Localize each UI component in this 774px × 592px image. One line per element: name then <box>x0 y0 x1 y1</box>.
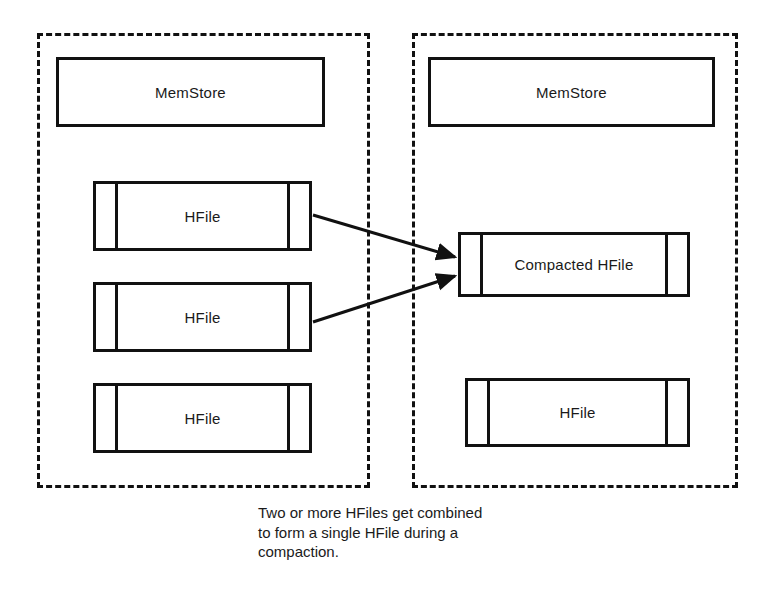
caption-text: Two or more HFiles get combined to form … <box>258 503 482 562</box>
diagram-canvas: MemStore HFile HFile HFile MemStore Comp… <box>0 0 774 592</box>
memstore-box-right: MemStore <box>428 57 715 127</box>
hfile-left-cap-icon <box>115 386 118 450</box>
hfile-right-cap-icon <box>287 386 290 450</box>
memstore-box-left: MemStore <box>56 57 325 127</box>
hfile-box-right-1: HFile <box>465 378 690 447</box>
compacted-hfile-box: Compacted HFile <box>458 232 690 297</box>
hfile-right-cap-icon <box>287 285 290 349</box>
hfile-box-left-2: HFile <box>93 282 312 352</box>
hfile-left-cap-icon <box>487 381 490 444</box>
hfile-label-left-3: HFile <box>184 410 220 427</box>
memstore-label-right: MemStore <box>536 84 607 101</box>
hfile-right-cap-icon <box>665 235 668 294</box>
hfile-right-cap-icon <box>287 184 290 248</box>
compacted-hfile-label: Compacted HFile <box>515 256 634 273</box>
hfile-left-cap-icon <box>480 235 483 294</box>
hfile-right-cap-icon <box>665 381 668 444</box>
memstore-label-left: MemStore <box>155 84 226 101</box>
hfile-label-left-1: HFile <box>184 208 220 225</box>
hfile-label-left-2: HFile <box>184 309 220 326</box>
hfile-box-left-1: HFile <box>93 181 312 251</box>
hfile-left-cap-icon <box>115 285 118 349</box>
hfile-left-cap-icon <box>115 184 118 248</box>
hfile-box-left-3: HFile <box>93 383 312 453</box>
hfile-label-right-1: HFile <box>559 404 595 421</box>
